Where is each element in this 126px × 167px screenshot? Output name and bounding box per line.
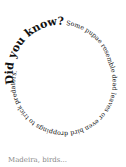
spiral-text: Did you know? Some pupae resemble dead l… — [3, 15, 119, 138]
spiral-text-graphic: Did you know? Some pupae resemble dead l… — [0, 0, 126, 167]
caption-text: Madeira, birds... — [8, 156, 67, 164]
